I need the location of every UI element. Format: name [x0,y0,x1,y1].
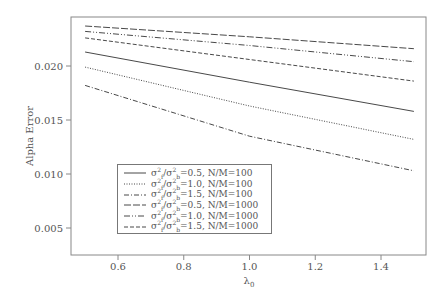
y-tick-label: 0.010 [34,169,63,180]
series-line [85,52,414,111]
y-tick-label: 0.015 [34,115,63,126]
y-tick-label: 0.020 [34,61,63,72]
series-line [85,38,414,81]
legend-line-swatch-icon [124,181,146,187]
legend-line-swatch-icon [124,224,146,230]
series-line [85,26,414,49]
x-axis: 0.60.81.01.21.4 [110,255,389,272]
legend-line-swatch-icon [124,170,146,176]
legend: σ2f/σ2b=0.5, N/M=100σ2f/σ2b=1.0, N/M=100… [117,164,272,234]
legend-line-swatch-icon [124,192,146,198]
legend-label: σ2f/σ2b=1.5, N/M=1000 [151,218,258,235]
x-tick-label: 0.6 [110,261,126,272]
y-tick-label: 0.005 [34,223,63,234]
series-line [85,67,414,139]
series-line [85,85,414,170]
x-tick-label: 0.8 [176,261,192,272]
legend-line-swatch-icon [124,202,146,208]
x-axis-label: λ0 [244,275,255,289]
y-axis-label: Alpha Error [24,106,35,167]
y-axis: 0.0050.0100.0150.020 [34,61,71,234]
x-tick-label: 1.0 [242,261,258,272]
series-line [85,31,414,61]
legend-line-swatch-icon [124,213,146,219]
legend-item: σ2f/σ2b=1.5, N/M=1000 [124,221,271,232]
x-tick-label: 1.2 [307,261,323,272]
line-chart: 0.0050.0100.0150.020 0.60.81.01.21.4 Alp… [0,0,448,301]
x-tick-label: 1.4 [373,261,389,272]
series-lines [85,26,414,171]
